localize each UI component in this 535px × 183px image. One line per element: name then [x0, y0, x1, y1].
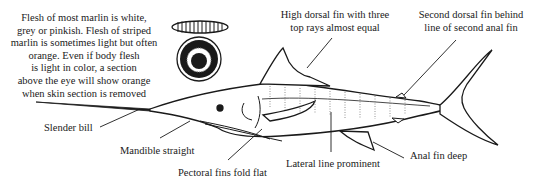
callout-anal-fin: Anal fin deep	[410, 150, 467, 163]
fish-cross-section-icon	[172, 21, 228, 81]
marlin-body	[36, 48, 498, 150]
callout-line: Second dorsal fin behind	[412, 9, 530, 22]
callout-slender-bill: Slender bill	[44, 122, 93, 135]
callout-line: top rays almost equal	[276, 22, 394, 35]
callout-line: line of second anal fin	[412, 22, 530, 35]
callout-dorsal-fin: High dorsal fin with three top rays almo…	[276, 9, 394, 34]
callout-pectoral-fins: Pectoral fins fold flat	[178, 167, 267, 180]
marlin-diagram: Flesh of most marlin is white, grey or p…	[0, 0, 535, 183]
callout-second-dorsal-fin: Second dorsal fin behind line of second …	[412, 9, 530, 34]
callout-line: High dorsal fin with three	[276, 9, 394, 22]
callout-lateral-line: Lateral line prominent	[286, 158, 380, 171]
callout-mandible-straight: Mandible straight	[120, 145, 194, 158]
